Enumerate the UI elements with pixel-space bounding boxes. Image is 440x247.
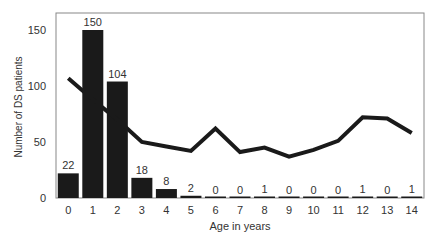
x-tick-label: 3 (139, 204, 145, 216)
x-tick-label: 7 (237, 204, 243, 216)
bar (377, 197, 398, 199)
bar (107, 82, 128, 198)
bar-value-label: 0 (384, 184, 390, 196)
bar-value-label: 150 (84, 16, 102, 28)
bar (156, 189, 177, 198)
bar-value-label: 0 (237, 184, 243, 196)
bar-value-label: 104 (108, 68, 126, 80)
x-axis-ticks: 01234567891011121314 (65, 204, 418, 216)
x-tick-label: 11 (332, 204, 343, 216)
bar-value-label: 0 (335, 184, 341, 196)
y-axis-ticks: 050100150 (28, 24, 46, 204)
x-tick-label: 5 (188, 204, 194, 216)
bar (180, 196, 201, 198)
bar (254, 197, 275, 199)
bar-line-chart: 221501041882001000101 050100150 01234567… (0, 0, 440, 247)
y-axis-title: Number of DS patients (13, 56, 24, 157)
x-tick-label: 12 (357, 204, 369, 216)
x-tick-label: 8 (261, 204, 267, 216)
y-tick-label: 0 (40, 192, 46, 204)
bar-value-label: 0 (311, 184, 317, 196)
bar-value-label: 1 (261, 183, 267, 195)
bar (352, 197, 373, 199)
x-axis-title: Age in years (209, 220, 271, 232)
bar-value-label: 0 (212, 184, 218, 196)
bar-value-label: 8 (163, 175, 169, 187)
y-tick-label: 100 (28, 80, 46, 92)
x-tick-label: 4 (163, 204, 169, 216)
x-tick-label: 13 (381, 204, 393, 216)
bar-value-label: 22 (62, 159, 74, 171)
x-tick-label: 1 (90, 204, 96, 216)
bar (328, 197, 349, 199)
bar-value-label: 18 (136, 164, 148, 176)
x-tick-label: 10 (307, 204, 319, 216)
bar (58, 173, 79, 198)
bar-value-label: 1 (360, 183, 366, 195)
bar (82, 30, 103, 198)
y-tick-label: 150 (28, 24, 46, 36)
bar (401, 197, 422, 199)
bar (279, 197, 300, 199)
bar (230, 197, 251, 199)
x-tick-label: 6 (212, 204, 218, 216)
y-tick-label: 50 (34, 136, 46, 148)
bar (205, 197, 226, 199)
bar-value-label: 2 (188, 182, 194, 194)
x-tick-label: 14 (406, 204, 418, 216)
x-tick-label: 9 (286, 204, 292, 216)
bar-value-label: 1 (409, 183, 415, 195)
x-tick-label: 2 (114, 204, 120, 216)
bar (303, 197, 324, 199)
bar-value-label: 0 (286, 184, 292, 196)
bar (131, 178, 152, 198)
x-tick-label: 0 (65, 204, 71, 216)
